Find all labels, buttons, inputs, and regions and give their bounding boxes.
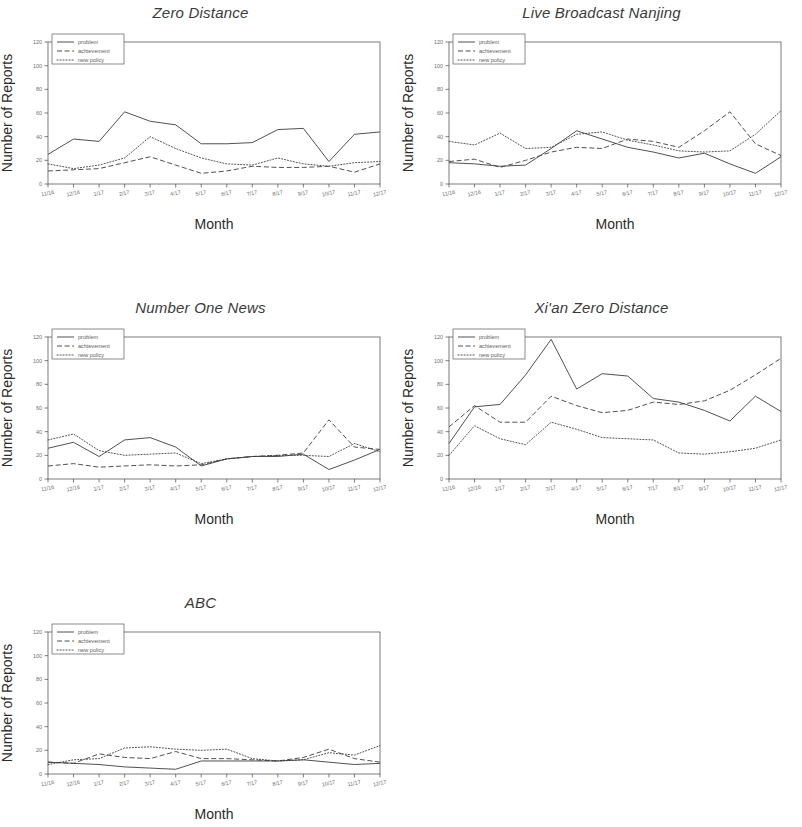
y-tick-label: 40 (36, 429, 42, 435)
x-tick-label: 8/17 (272, 779, 284, 787)
x-tick-label: 2/17 (118, 484, 130, 492)
x-tick-label: 11/16 (442, 189, 456, 198)
y-tick-label: 100 (33, 63, 42, 69)
y-tick-label: 20 (36, 452, 42, 458)
legend-label: problem (479, 39, 500, 45)
x-tick-label: 7/17 (246, 484, 258, 492)
x-tick-label: 5/17 (195, 484, 207, 492)
series-line-achievement (449, 358, 781, 427)
chart-canvas: Number of Reports02040608010012011/1612/… (401, 22, 802, 272)
x-axis-title: Month (195, 806, 234, 822)
x-tick-label: 12/17 (773, 484, 787, 493)
x-tick-label: 11/16 (41, 484, 55, 493)
legend-label: new policy (78, 647, 104, 653)
x-tick-label: 1/17 (93, 484, 105, 492)
y-axis-title: Number of Reports (401, 349, 416, 467)
legend-label: achievement (78, 343, 110, 349)
x-tick-label: 10/17 (321, 189, 335, 198)
y-tick-label: 120 (434, 334, 443, 340)
y-tick-label: 100 (434, 63, 443, 69)
x-tick-label: 4/17 (571, 189, 583, 197)
y-tick-label: 20 (437, 452, 443, 458)
series-line-problem (449, 131, 781, 174)
x-tick-label: 5/17 (195, 779, 207, 787)
x-tick-label: 3/17 (144, 189, 156, 197)
chart-legend: problemachievementnew policy (52, 624, 124, 654)
y-tick-label: 120 (33, 629, 42, 635)
y-axis-title: Number of Reports (401, 54, 416, 172)
x-tick-label: 5/17 (195, 189, 207, 197)
x-tick-label: 12/17 (372, 779, 386, 788)
y-tick-label: 80 (437, 381, 443, 387)
y-tick-label: 120 (33, 39, 42, 45)
series-line-problem (48, 112, 380, 162)
legend-label: achievement (78, 638, 110, 644)
x-axis-title: Month (596, 511, 635, 527)
chart-canvas: Number of Reports02040608010012011/1612/… (401, 317, 802, 567)
y-tick-label: 20 (437, 157, 443, 163)
x-tick-label: 11/16 (41, 189, 55, 198)
y-tick-label: 40 (36, 724, 42, 730)
chart-canvas: Number of Reports02040608010012011/1612/… (0, 22, 401, 272)
x-tick-label: 2/17 (118, 189, 130, 197)
y-axis-title: Number of Reports (0, 54, 15, 172)
legend-label: achievement (78, 48, 110, 54)
x-tick-label: 1/17 (494, 484, 506, 492)
x-tick-label: 2/17 (519, 484, 531, 492)
x-tick-label: 7/17 (647, 189, 659, 197)
x-tick-label: 8/17 (673, 189, 685, 197)
x-tick-label: 3/17 (144, 779, 156, 787)
y-tick-label: 0 (39, 181, 42, 187)
y-tick-label: 20 (36, 157, 42, 163)
series-line-problem (48, 760, 380, 769)
x-tick-label: 11/16 (41, 779, 55, 788)
x-tick-label: 9/17 (297, 189, 309, 197)
chart-title: Xi'an Zero Distance (401, 299, 802, 316)
y-tick-label: 20 (36, 747, 42, 753)
y-tick-label: 80 (36, 676, 42, 682)
x-tick-label: 7/17 (246, 779, 258, 787)
chart-title: ABC (0, 594, 401, 611)
x-tick-label: 3/17 (545, 484, 557, 492)
legend-label: new policy (479, 57, 505, 63)
legend-label: achievement (479, 343, 511, 349)
legend-label: problem (78, 334, 99, 340)
y-axis-title: Number of Reports (0, 349, 15, 467)
y-tick-label: 80 (36, 86, 42, 92)
x-tick-label: 10/17 (321, 779, 335, 788)
series-line-new-policy (449, 111, 781, 152)
x-tick-label: 8/17 (272, 189, 284, 197)
x-tick-label: 6/17 (221, 779, 233, 787)
y-tick-label: 100 (33, 358, 42, 364)
x-tick-label: 12/17 (372, 484, 386, 493)
chart-canvas: Number of Reports02040608010012011/1612/… (0, 317, 401, 567)
series-line-achievement (449, 112, 781, 168)
figure-grid: Zero DistanceNumber of Reports0204060801… (0, 0, 802, 827)
x-tick-label: 1/17 (93, 189, 105, 197)
series-line-new-policy (48, 746, 380, 765)
chart-canvas: Number of Reports02040608010012011/1612/… (0, 612, 401, 827)
x-tick-label: 12/16 (66, 779, 80, 788)
chart-legend: problemachievementnew policy (453, 34, 525, 64)
series-line-achievement (48, 420, 380, 467)
y-tick-label: 0 (39, 771, 42, 777)
legend-label: problem (78, 39, 99, 45)
y-tick-label: 60 (36, 700, 42, 706)
series-line-new-policy (48, 434, 380, 464)
x-tick-label: 10/17 (722, 484, 736, 493)
x-tick-label: 2/17 (519, 189, 531, 197)
x-tick-label: 4/17 (170, 189, 182, 197)
y-tick-label: 0 (440, 476, 443, 482)
x-tick-label: 6/17 (622, 484, 634, 492)
y-tick-label: 60 (36, 405, 42, 411)
legend-label: achievement (479, 48, 511, 54)
x-tick-label: 11/17 (748, 484, 762, 493)
chart-title: Zero Distance (0, 4, 401, 21)
x-tick-label: 12/16 (467, 189, 481, 198)
x-tick-label: 12/16 (66, 189, 80, 198)
y-tick-label: 100 (434, 358, 443, 364)
x-tick-label: 6/17 (221, 484, 233, 492)
y-tick-label: 60 (36, 110, 42, 116)
y-tick-label: 60 (437, 110, 443, 116)
legend-label: problem (78, 629, 99, 635)
